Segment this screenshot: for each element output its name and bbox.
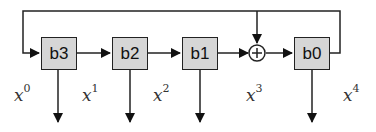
- term-x1: x1: [82, 84, 99, 105]
- register-b2: b2: [112, 37, 148, 70]
- register-b1: b1: [182, 37, 218, 70]
- term-x3: x3: [246, 84, 263, 105]
- term-x4: x4: [343, 84, 360, 105]
- lfsr-diagram: b3 b2 b1 b0 x0 x1 x2 x3 x4: [0, 0, 376, 132]
- register-b3: b3: [41, 37, 77, 70]
- term-x0: x0: [14, 84, 31, 105]
- term-x2: x2: [153, 84, 170, 105]
- register-b0: b0: [294, 37, 330, 70]
